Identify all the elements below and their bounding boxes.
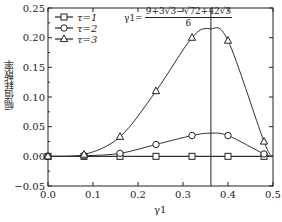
y-tick-label: 0.10	[23, 92, 45, 103]
y-tick-label: 0.15	[23, 62, 45, 73]
series-group	[44, 28, 273, 160]
x-tick-label: 0.1	[85, 189, 101, 200]
y-tick-label: 0.00	[23, 151, 45, 162]
y-axis: 0.250.200.150.100.050.00−0.05	[14, 3, 273, 192]
y-tick-label: 0.20	[23, 32, 45, 43]
svg-text:τ=2: τ=2	[77, 23, 97, 34]
x-tick-label: 0.4	[220, 189, 236, 200]
y-tick-label: 0.05	[23, 121, 45, 132]
x-tick-label: 0.0	[40, 189, 56, 200]
legend: τ=1τ=2τ=3	[55, 12, 97, 45]
svg-text:τ=1: τ=1	[77, 12, 97, 23]
x-tick-label: 0.5	[265, 189, 281, 200]
formula-annotation: γ1= 9+3√3−√72+42√3 6	[124, 6, 232, 29]
legend-item: τ=1	[55, 12, 97, 23]
svg-text:τ=3: τ=3	[77, 34, 97, 45]
chart: 0.250.200.150.100.050.00−0.05 0.00.10.20…	[0, 0, 282, 222]
y-tick-label: 0.25	[23, 3, 45, 14]
legend-item: τ=2	[55, 23, 97, 34]
formula-numerator: 9+3√3−√72+42√3	[145, 6, 233, 18]
x-axis-label: γ1	[154, 204, 166, 215]
x-tick-label: 0.3	[175, 189, 191, 200]
legend-item: τ=3	[55, 34, 97, 45]
series-triangle	[44, 28, 273, 159]
formula-denominator: 6	[186, 18, 192, 29]
formula-lhs: γ1=	[124, 13, 143, 23]
x-tick-label: 0.2	[130, 189, 146, 200]
y-axis-label: 幅值耗散率	[2, 60, 16, 110]
